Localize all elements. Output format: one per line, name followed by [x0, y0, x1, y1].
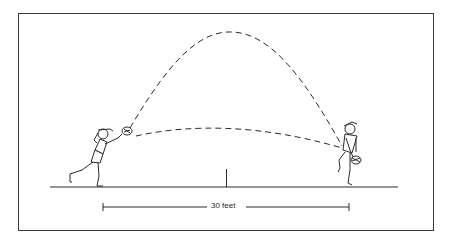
left-player: [70, 127, 132, 186]
distance-label: 30 feet: [209, 201, 237, 210]
right-player: [338, 122, 361, 185]
low-arc-trajectory: [136, 128, 342, 148]
